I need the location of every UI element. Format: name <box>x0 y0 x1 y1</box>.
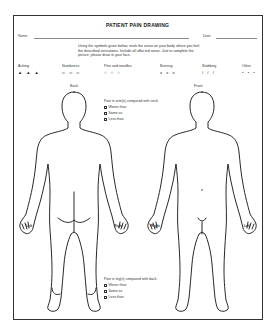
date-label: Date <box>203 34 211 38</box>
legend-label: Aching <box>18 64 29 68</box>
legend-pins-needles: Pins and needles ○ ○ ○ <box>104 64 132 75</box>
leg-less-option[interactable]: Less than <box>104 294 157 300</box>
legend-label: Numbness <box>62 64 79 68</box>
legend-label: Stabbing <box>202 64 216 68</box>
leg-pain-question: Pain in leg(s) compared with back Worse … <box>104 276 157 300</box>
checkbox[interactable] <box>104 118 107 121</box>
back-left-hand-label: Left <box>26 224 32 228</box>
arm-pain-question: Pain in arm(s) compared with neck Worse … <box>104 98 158 122</box>
legend-burning: Burning x x x <box>160 64 176 75</box>
date-field[interactable] <box>216 38 257 39</box>
legend-label: Burning <box>160 64 172 68</box>
dash-icon: ═ ═ ═ <box>62 70 81 75</box>
name-label: Name <box>18 34 28 38</box>
checkbox[interactable] <box>104 112 107 115</box>
checkbox[interactable] <box>104 106 107 109</box>
legend-aching: Aching ▲ ▲ ▲ <box>18 64 40 75</box>
instructions-text: Using the symbols given below, mark the … <box>78 44 203 58</box>
legend-label: Pins and needles <box>104 64 132 68</box>
legend-other: Other • • • <box>242 64 256 75</box>
back-right-hand-label: Right <box>114 224 123 228</box>
circle-icon: ○ ○ ○ <box>104 70 132 75</box>
pain-drawing-form: PATIENT PAIN DRAWING Name Date Using the… <box>0 0 275 333</box>
legend-numbness: Numbness ═ ═ ═ <box>62 64 81 75</box>
legend-stabbing: Stabbing / / / <box>202 64 216 75</box>
arm-less-option[interactable]: Less than <box>104 116 158 122</box>
form-title: PATIENT PAIN DRAWING <box>0 22 275 28</box>
dot-icon: • • • <box>242 70 256 75</box>
checkbox[interactable] <box>104 290 107 293</box>
checkbox[interactable] <box>104 296 107 299</box>
triangle-icon: ▲ ▲ ▲ <box>18 70 40 75</box>
checkbox[interactable] <box>104 284 107 287</box>
slash-icon: / / / <box>202 70 216 75</box>
front-left-hand-label: Left <box>244 224 250 228</box>
x-mark-icon: x x x <box>160 70 176 75</box>
front-body-outline[interactable] <box>146 88 258 318</box>
name-field[interactable] <box>34 38 189 39</box>
front-right-hand-label: Right <box>151 224 160 228</box>
legend-label: Other <box>242 64 251 68</box>
